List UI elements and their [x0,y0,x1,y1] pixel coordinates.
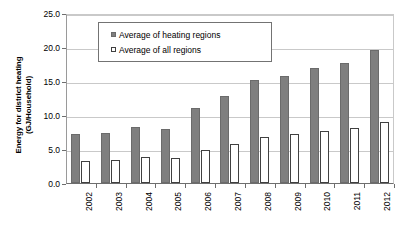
category-group [335,15,365,183]
x-axis-tick-mark [394,184,395,188]
x-axis-tick-mark [215,184,216,188]
x-axis-tick-label-2004: 2004 [145,192,154,232]
legend-swatch-filled-square-icon [111,32,116,37]
bar-2008-series2 [260,137,269,183]
bar-2003-series2 [111,160,120,183]
x-axis-tick-label-2003: 2003 [115,192,124,232]
x-axis-tick-mark [364,184,365,188]
y-axis-tick-label: 20.0 [18,44,60,53]
bar-2002-series2 [81,161,90,183]
bar-2003-series1 [101,133,110,183]
x-axis-tick-label-2002: 2002 [85,192,94,232]
bar-2005-series2 [171,158,180,183]
chart-legend: Average of heating regions Average of al… [98,22,272,62]
x-axis-tick-label-2010: 2010 [323,192,332,232]
legend-label-heating-regions: Average of heating regions [119,30,220,40]
y-axis-tick-label: 10.0 [18,112,60,121]
x-axis-tick-mark [245,184,246,188]
bar-2006-series1 [191,108,200,183]
category-group [365,15,395,183]
legend-entry-heating-regions: Average of heating regions [111,27,271,42]
bar-2007-series1 [220,96,229,183]
y-axis-tick-label: 0.0 [18,180,60,189]
bar-2004-series2 [141,157,150,183]
x-axis-tick-label-2007: 2007 [234,192,243,232]
x-axis-tick-mark [126,184,127,188]
bar-2009-series1 [280,76,289,183]
category-group [276,15,306,183]
x-axis-tick-mark [96,184,97,188]
bar-2008-series1 [250,80,259,183]
bar-2005-series1 [161,129,170,183]
bar-chart: Energy for district heating (GJ/Househol… [0,0,407,249]
category-group [67,15,97,183]
bar-2012-series1 [370,50,379,183]
legend-label-all-regions: Average of all regions [119,45,201,55]
y-axis-tick-label: 25.0 [18,10,60,19]
bar-2011-series1 [340,63,349,183]
bar-2011-series2 [350,128,359,183]
x-axis-tick-label-2012: 2012 [383,192,392,232]
x-axis-tick-label-2009: 2009 [294,192,303,232]
bar-2010-series1 [310,68,319,183]
y-axis-title-line1: Energy for district heating [14,57,25,154]
bar-2007-series2 [230,144,239,183]
x-axis-tick-mark [155,184,156,188]
bar-2006-series2 [201,150,210,183]
x-axis-tick-mark [334,184,335,188]
y-axis-tick-mark [62,184,66,185]
legend-entry-all-regions: Average of all regions [111,42,271,57]
x-axis-tick-label-2011: 2011 [353,192,362,232]
bar-2012-series2 [380,122,389,183]
bar-2004-series1 [131,127,140,183]
y-axis-tick-label: 15.0 [18,78,60,87]
bar-2010-series2 [320,131,329,183]
bar-2002-series1 [71,134,80,183]
category-group [306,15,336,183]
bar-2009-series2 [290,134,299,183]
y-axis-tick-label: 5.0 [18,146,60,155]
x-axis-tick-label-2008: 2008 [264,192,273,232]
x-axis-tick-mark [185,184,186,188]
legend-swatch-hollow-square-icon [111,47,116,52]
x-axis-tick-mark [305,184,306,188]
x-axis-tick-label-2005: 2005 [174,192,183,232]
x-axis-tick-label-2006: 2006 [204,192,213,232]
x-axis-tick-mark [275,184,276,188]
